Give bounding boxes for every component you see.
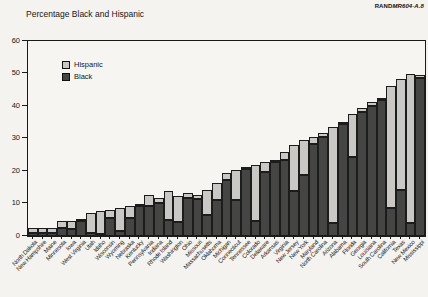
bar-texas-hispanic-segment: [396, 79, 406, 190]
bar-west-virginia: [76, 219, 86, 236]
bar-virginia-hispanic-segment: [280, 152, 290, 160]
bar-connecticut-black-segment: [231, 200, 241, 236]
y-axis-tick-label: 30: [0, 133, 20, 142]
bar-north-dakota-black-segment: [28, 233, 38, 236]
bar-idaho-hispanic-segment: [96, 211, 106, 234]
bar-massachusetts-black-segment: [202, 215, 212, 236]
bar-maryland: [309, 137, 319, 236]
bar-rhode-island-hispanic-segment: [164, 191, 174, 220]
bar-minnesota: [57, 221, 67, 236]
rand-logo-text: RAND: [375, 3, 393, 9]
bar-nebraska-black-segment: [125, 218, 135, 236]
bar-south-carolina: [377, 98, 387, 236]
y-axis-tick-label: 10: [0, 198, 20, 207]
bar-wisconsin: [105, 210, 115, 236]
bar-louisiana-black-segment: [367, 106, 377, 236]
bar-virginia: [280, 152, 290, 236]
y-axis-tick: [22, 170, 27, 171]
bar-alabama: [338, 122, 348, 236]
bar-indiana: [154, 198, 164, 236]
bar-kentucky: [135, 204, 145, 236]
bar-oklahoma-black-segment: [212, 200, 222, 236]
bar-delaware-hispanic-segment: [260, 162, 270, 172]
bar-north-carolina-black-segment: [318, 137, 328, 236]
bar-missouri: [193, 195, 203, 236]
y-axis-tick-label: 60: [0, 36, 20, 45]
bar-colorado-hispanic-segment: [251, 165, 261, 221]
bar-wisconsin-black-segment: [105, 218, 115, 236]
bar-connecticut-hispanic-segment: [231, 170, 241, 200]
figure-page: RANDMR604-A.8 Percentage Black and Hispa…: [0, 0, 428, 297]
bar-connecticut: [231, 170, 241, 236]
bar-maryland-black-segment: [309, 144, 319, 236]
bar-north-carolina: [318, 133, 328, 236]
bar-north-dakota: [28, 228, 38, 236]
bar-new-york: [299, 140, 309, 236]
y-axis-tick: [22, 235, 27, 236]
bar-california-black-segment: [386, 208, 396, 236]
bar-new-mexico: [406, 74, 416, 236]
bar-arizona-hispanic-segment: [328, 127, 338, 223]
bar-virginia-black-segment: [280, 160, 290, 236]
figure-id-text: MR604-A.8: [392, 3, 424, 9]
bar-utah: [86, 213, 96, 236]
bar-florida-black-segment: [348, 157, 358, 236]
bar-west-virginia-black-segment: [76, 221, 86, 236]
bar-massachusetts: [202, 190, 212, 236]
figure-source-label: RANDMR604-A.8: [375, 3, 424, 9]
bar-pennsylvania-black-segment: [144, 206, 154, 236]
y-axis-tick: [22, 72, 27, 73]
bar-kentucky-black-segment: [135, 206, 145, 236]
bar-georgia-black-segment: [357, 112, 367, 236]
bar-wyoming-black-segment: [115, 231, 125, 236]
chart-title: Percentage Black and Hispanic: [26, 9, 144, 19]
bar-texas: [396, 79, 406, 236]
bar-michigan: [222, 173, 232, 236]
bar-florida: [348, 114, 358, 236]
y-axis-tick-label: 50: [0, 68, 20, 77]
bar-michigan-black-segment: [222, 180, 232, 236]
bar-new-mexico-black-segment: [406, 223, 416, 236]
bar-alabama-black-segment: [338, 124, 348, 236]
bar-oklahoma-hispanic-segment: [212, 183, 222, 200]
bar-new-hampshire: [38, 228, 48, 236]
bar-texas-black-segment: [396, 190, 406, 236]
bar-missouri-black-segment: [193, 199, 203, 236]
bar-south-carolina-black-segment: [377, 100, 387, 236]
y-axis-tick-label: 20: [0, 166, 20, 175]
y-axis-tick-label: 0: [0, 231, 20, 240]
y-axis-tick-label: 40: [0, 101, 20, 110]
bar-arizona-black-segment: [328, 223, 338, 236]
bar-arizona: [328, 127, 338, 236]
bar-ohio-black-segment: [183, 198, 193, 236]
bar-oklahoma: [212, 183, 222, 236]
bar-pennsylvania-hispanic-segment: [144, 195, 154, 206]
bar-minnesota-black-segment: [57, 228, 67, 236]
bar-colorado-black-segment: [251, 221, 261, 236]
bar-pennsylvania: [144, 195, 154, 236]
bar-iowa-hispanic-segment: [67, 221, 77, 228]
bar-new-york-hispanic-segment: [299, 140, 309, 175]
bar-florida-hispanic-segment: [348, 114, 358, 157]
bar-iowa: [67, 221, 77, 236]
y-axis-tick: [22, 105, 27, 106]
bar-louisiana: [367, 102, 377, 236]
bar-iowa-black-segment: [67, 229, 77, 236]
bar-new-jersey-hispanic-segment: [289, 145, 299, 191]
bar-nebraska: [125, 206, 135, 236]
plot-area: Hispanic Black: [27, 40, 426, 237]
bar-maine: [47, 228, 57, 236]
y-axis-tick: [22, 137, 27, 138]
bar-colorado: [251, 165, 261, 236]
bar-california: [386, 86, 396, 236]
bar-new-york-black-segment: [299, 175, 309, 236]
bar-wyoming: [115, 208, 125, 236]
bar-new-jersey: [289, 145, 299, 236]
bar-michigan-hispanic-segment: [222, 173, 232, 180]
y-axis-tick: [22, 202, 27, 203]
bar-arkansas-black-segment: [270, 162, 280, 236]
bar-new-jersey-black-segment: [289, 191, 299, 237]
bar-washington-hispanic-segment: [173, 196, 183, 222]
bar-massachusetts-hispanic-segment: [202, 190, 212, 215]
bar-rhode-island: [164, 191, 174, 236]
